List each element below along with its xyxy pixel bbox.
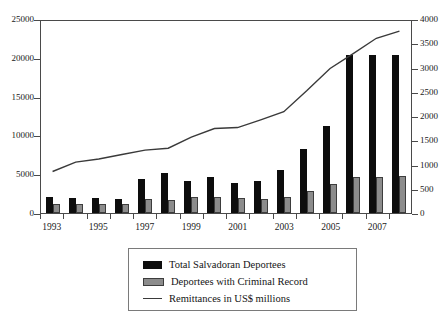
chart-legend: Total Salvadoran DeporteesDeportees with… bbox=[128, 248, 357, 311]
gray-square-swatch-icon bbox=[143, 278, 164, 286]
x-axis-tick-mark bbox=[203, 214, 204, 219]
right-axis-tick-mark bbox=[412, 93, 418, 94]
x-axis-tick-mark bbox=[63, 214, 64, 219]
right-axis-tick-label: 4000 bbox=[420, 15, 448, 24]
x-axis-tick-label: 1993 bbox=[32, 222, 72, 233]
right-axis-tick-label: 3000 bbox=[420, 64, 448, 73]
left-axis-tick-label: 0 bbox=[0, 209, 34, 218]
left-axis-tick-label: 15000 bbox=[0, 93, 34, 102]
line-swatch-icon bbox=[143, 298, 162, 299]
right-axis-tick-mark bbox=[412, 20, 418, 21]
right-axis-tick-label: 500 bbox=[420, 185, 448, 194]
x-axis-tick-mark bbox=[226, 214, 227, 219]
x-axis-tick-label: 2005 bbox=[311, 222, 351, 233]
legend-item-label: Remittances in US$ millions bbox=[169, 293, 290, 305]
right-axis-tick-label: 1500 bbox=[420, 136, 448, 145]
x-axis-tick-mark bbox=[87, 214, 88, 219]
black-square-swatch-icon bbox=[143, 261, 162, 269]
x-axis-tick-label: 1995 bbox=[78, 222, 118, 233]
x-axis-tick-mark bbox=[40, 214, 41, 219]
left-axis-tick-label: 10000 bbox=[0, 131, 34, 140]
x-axis-tick-mark bbox=[366, 214, 367, 219]
x-axis-tick-mark bbox=[156, 214, 157, 219]
legend-item: Remittances in US$ millions bbox=[143, 290, 356, 307]
right-axis-tick-label: 2000 bbox=[420, 112, 448, 121]
x-axis-tick-label: 2003 bbox=[264, 222, 304, 233]
legend-item-label: Total Salvadoran Deportees bbox=[169, 259, 285, 271]
x-axis-tick-mark bbox=[319, 214, 320, 219]
legend-item: Deportees with Criminal Record bbox=[143, 273, 356, 290]
x-axis-tick-label: 2007 bbox=[357, 222, 397, 233]
x-axis-tick-label: 1999 bbox=[171, 222, 211, 233]
x-axis-tick-label: 2001 bbox=[218, 222, 258, 233]
right-axis-tick-mark bbox=[412, 44, 418, 45]
right-axis-tick-mark bbox=[412, 117, 418, 118]
left-axis-tick-label: 20000 bbox=[0, 54, 34, 63]
x-axis-tick-mark bbox=[110, 214, 111, 219]
left-axis-tick-label: 25000 bbox=[0, 15, 34, 24]
right-axis-tick-label: 1000 bbox=[420, 161, 448, 170]
x-axis-tick-label: 1997 bbox=[125, 222, 165, 233]
legend-item-label: Deportees with Criminal Record bbox=[171, 276, 308, 288]
right-axis-tick-label: 3500 bbox=[420, 39, 448, 48]
remittances-line bbox=[53, 31, 400, 171]
chart-figure: 0500010000150002000025000 05001000150020… bbox=[0, 0, 448, 319]
legend-item: Total Salvadoran Deportees bbox=[143, 256, 356, 273]
plot-area bbox=[40, 20, 412, 214]
right-axis-tick-mark bbox=[412, 69, 418, 70]
right-axis-tick-mark bbox=[412, 141, 418, 142]
x-axis-tick-mark bbox=[249, 214, 250, 219]
x-axis-tick-mark bbox=[342, 214, 343, 219]
x-axis-tick-mark bbox=[389, 214, 390, 219]
left-axis-tick-label: 5000 bbox=[0, 170, 34, 179]
right-axis-tick-label: 0 bbox=[420, 209, 448, 218]
right-axis-tick-mark bbox=[412, 214, 418, 215]
x-axis-tick-mark bbox=[273, 214, 274, 219]
x-axis-tick-mark bbox=[296, 214, 297, 219]
remittances-line-layer bbox=[41, 21, 411, 213]
right-axis-tick-label: 2500 bbox=[420, 88, 448, 97]
x-axis-tick-mark bbox=[133, 214, 134, 219]
x-axis-tick-mark bbox=[180, 214, 181, 219]
right-axis-tick-mark bbox=[412, 166, 418, 167]
right-axis-tick-mark bbox=[412, 190, 418, 191]
